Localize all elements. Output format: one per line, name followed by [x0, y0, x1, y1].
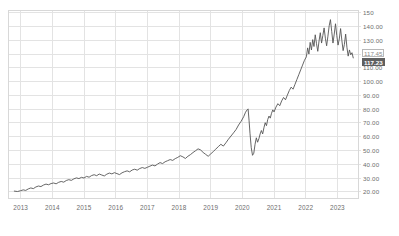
- x-axis-tick-label: 2019: [203, 204, 218, 211]
- x-axis-tick-label: 2017: [140, 204, 155, 211]
- y-axis-tick-label: 40.00: [363, 161, 379, 168]
- y-axis-tick-label: 70.00: [363, 119, 379, 126]
- current-price-tag[interactable]: 117.23: [362, 58, 385, 66]
- y-axis-tick-label: 30.00: [363, 175, 379, 182]
- y-axis-tick-label: 20.00: [363, 188, 379, 195]
- x-axis-tick-label: 2021: [267, 204, 282, 211]
- y-axis-tick-label: 80.00: [363, 106, 379, 113]
- x-axis-tick-label: 2015: [77, 204, 92, 211]
- y-axis-tick-label: 130.00: [363, 37, 383, 44]
- chart-background: [0, 0, 399, 236]
- x-axis-tick-label: 2023: [330, 204, 345, 211]
- stock-price-chart: 150140.00130.00110.00100.0090.0080.0070.…: [0, 0, 399, 236]
- y-axis-tick-label: 140.00: [363, 23, 383, 30]
- y-axis-tick-label: 90.00: [363, 92, 379, 99]
- previous-close-tag[interactable]: 117.45: [362, 49, 384, 57]
- chart-plot-area[interactable]: [0, 0, 399, 236]
- x-axis-tick-label: 2018: [172, 204, 187, 211]
- x-axis-tick-label: 2022: [298, 204, 313, 211]
- y-axis-tick-label: 60.00: [363, 133, 379, 140]
- y-axis-tick-label: 150: [363, 9, 374, 16]
- x-axis-tick-label: 2013: [13, 204, 28, 211]
- y-axis-tick-label: 100.00: [363, 78, 383, 85]
- x-axis-tick-label: 2020: [235, 204, 250, 211]
- x-axis-tick-label: 2016: [108, 204, 123, 211]
- y-axis-tick-label: 50.00: [363, 147, 379, 154]
- x-axis-tick-label: 2014: [45, 204, 60, 211]
